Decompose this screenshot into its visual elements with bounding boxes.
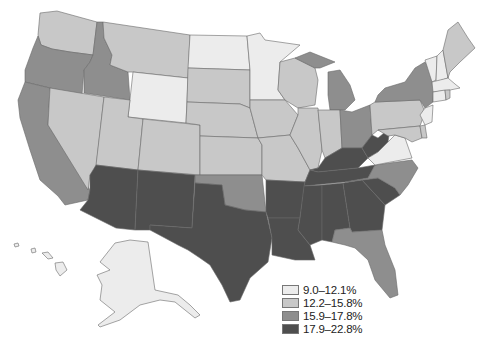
legend-item: 12.2–15.8% [282, 296, 392, 309]
state-arkansas [266, 180, 305, 218]
legend-swatch [282, 298, 299, 308]
legend-label: 9.0–12.1% [303, 284, 356, 296]
legend-label: 17.9–22.8% [303, 323, 362, 335]
legend-label: 15.9–17.8% [303, 310, 362, 322]
state-new-mexico [135, 170, 195, 230]
us-choropleth-map [0, 0, 486, 337]
legend: 9.0–12.1% 12.2–15.8% 15.9–17.8% 17.9–22.… [282, 283, 392, 335]
state-kansas [200, 136, 262, 175]
legend-item: 15.9–17.8% [282, 309, 392, 322]
state-hawaii-1 [14, 243, 19, 247]
state-colorado [138, 119, 200, 175]
state-wyoming [128, 72, 188, 123]
state-south-dakota [187, 68, 250, 108]
legend-swatch [282, 285, 299, 295]
state-hawaii-2 [31, 248, 36, 253]
legend-swatch [282, 311, 299, 321]
legend-swatch [282, 324, 299, 334]
state-rhode-island [445, 90, 450, 100]
state-hawaii-3 [42, 252, 53, 259]
state-alaska [97, 240, 200, 327]
legend-label: 12.2–15.8% [303, 297, 362, 309]
state-north-dakota [188, 35, 250, 70]
state-maine [443, 22, 475, 78]
legend-item: 17.9–22.8% [282, 322, 392, 335]
state-connecticut [433, 90, 446, 102]
state-michigan [328, 70, 355, 110]
legend-item: 9.0–12.1% [282, 283, 392, 296]
state-hawaii-4 [55, 262, 67, 276]
